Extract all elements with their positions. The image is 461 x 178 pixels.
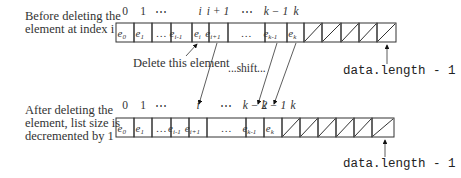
svg-text:ek-1: ek-1 [242,122,256,136]
array-cell: ei+1 [205,23,228,42]
svg-text:ek: ek [266,122,275,136]
svg-text:ek-1: ek-1 [263,27,277,41]
delete-this-element-label: Delete this element [133,57,230,70]
array-cell: ek-1 [242,118,264,137]
top-array: e0e1…ei-1eiei+1…ek-1ek [116,23,396,42]
array-cell: … [152,23,171,42]
svg-text:ei+1: ei+1 [205,27,220,41]
empty-cell [282,118,300,137]
empty-cell [359,23,377,42]
array-cell: ek [287,23,304,42]
array-cell: … [207,118,246,137]
empty-cell [336,118,354,137]
top-length-label: data.length - 1 [343,64,456,78]
array-cell: e0 [116,23,134,42]
array-cell: e1 [134,118,152,137]
empty-cell [300,118,318,137]
bottom-array: e0e1…ei-1ei+1…ek-1ek [116,118,394,137]
svg-text:e0: e0 [118,122,127,136]
empty-cell [318,118,336,137]
arrow [274,43,296,104]
svg-text:e1: e1 [136,122,144,136]
array-cell: … [228,23,265,42]
array-cell: ek-1 [263,23,287,42]
empty-cell [304,23,322,42]
array-cell: ei-1 [170,23,192,42]
svg-text:ek: ek [288,27,297,41]
array-cell: e0 [116,118,134,137]
empty-cell [354,118,372,137]
arrow [199,43,217,104]
svg-text:…: … [157,27,167,39]
empty-cell [341,23,359,42]
svg-text:…: … [242,27,252,39]
array-cell: ek [264,118,282,137]
array-cell: e1 [134,23,152,42]
svg-text:…: … [222,122,232,134]
shift-label: ...shift... [228,62,266,75]
svg-text:ei-1: ei-1 [170,27,183,41]
empty-cell [372,118,394,137]
svg-text:…: … [157,122,167,134]
svg-text:e1: e1 [136,27,144,41]
svg-text:e0: e0 [118,27,127,41]
array-cell: ei+1 [185,118,207,137]
empty-cell [322,23,341,42]
empty-cell [377,23,396,42]
arrow [186,44,197,56]
svg-text:ei-1: ei-1 [168,122,181,136]
svg-text:ei+1: ei+1 [185,122,200,136]
array-diagram: e0e1…ei-1eiei+1…ek-1ek e0e1…ei-1ei+1…ek-… [0,0,461,178]
bottom-length-label: data.length - 1 [343,157,456,171]
svg-text:ei: ei [194,27,201,41]
